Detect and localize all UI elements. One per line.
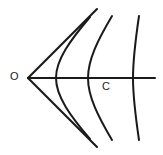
cone-upper-line (28, 9, 97, 78)
cone-lower-line (28, 78, 97, 147)
label-origin-o: O (10, 71, 19, 82)
label-center-c: C (102, 81, 110, 92)
diagram-svg (0, 0, 163, 155)
figure-canvas: O C (0, 0, 163, 155)
